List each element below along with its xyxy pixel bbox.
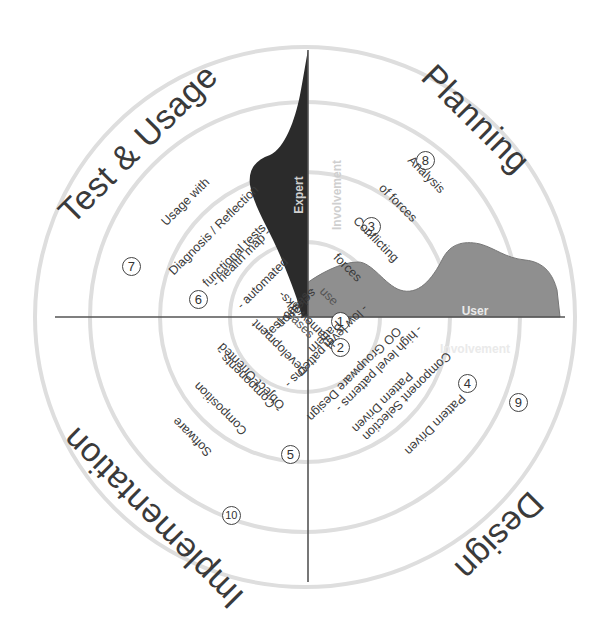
item-7-number: 7 bbox=[104, 240, 141, 293]
item-10-number: 10 bbox=[204, 489, 241, 542]
spiral-process-diagram: Test & Usage Planning Design Implementat… bbox=[0, 0, 589, 639]
item-5-number: 5 bbox=[263, 428, 300, 481]
